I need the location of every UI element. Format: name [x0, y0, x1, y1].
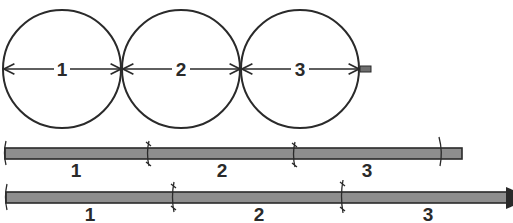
circle-2: 2 — [122, 10, 240, 128]
strip-bottom-label-3: 3 — [423, 204, 434, 223]
circle-1-label: 1 — [57, 59, 68, 80]
strip-top-label-1: 1 — [71, 160, 82, 181]
strip-top: 1 2 3 — [5, 137, 463, 181]
circle-2-label: 2 — [176, 59, 187, 80]
circle-3-label: 3 — [295, 59, 306, 80]
strip-top-label-3: 3 — [362, 160, 373, 181]
circumference-diagram: 1 2 3 1 2 3 1 2 3 — [0, 0, 513, 223]
strip-bottom-arrow-icon — [506, 187, 513, 209]
strip-bottom-label-1: 1 — [85, 204, 96, 223]
circle-3: 3 — [241, 10, 359, 128]
strip-top-label-2: 2 — [217, 160, 228, 181]
circle-end-tab — [360, 66, 371, 72]
strip-bottom-label-2: 2 — [254, 204, 265, 223]
strip-bottom: 1 2 3 — [6, 180, 513, 223]
circle-1: 1 — [3, 10, 121, 128]
